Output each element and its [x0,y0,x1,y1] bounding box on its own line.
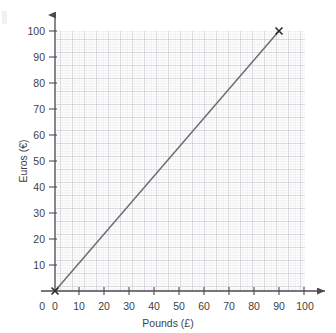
grid-area [55,31,305,291]
page-edge-artifact [2,11,7,24]
x-tick-label: 30 [123,300,135,312]
grid-pattern [55,31,305,291]
y-tick-label: 30 [33,207,45,219]
x-tick-label: 70 [223,300,235,312]
y-tick-label: 90 [33,51,45,63]
y-tick-label: 20 [33,233,45,245]
y-tick-label: 100 [27,25,45,37]
y-axis-title: Euros (€) [17,139,29,182]
x-tick-label: 60 [198,300,210,312]
x-axis-tick-labels: 0 10 20 30 40 50 60 70 80 90 100 [52,300,314,312]
y-tick-label: 60 [33,129,45,141]
chart-svg: 100 90 80 70 60 50 40 30 20 10 0 0 10 20… [0,0,336,333]
x-tick-label: 40 [148,300,160,312]
y-axis-tick-labels: 100 90 80 70 60 50 40 30 20 10 0 [27,25,45,312]
x-tick-label: 90 [273,300,285,312]
y-tick-label: 40 [33,181,45,193]
x-tick-label: 20 [98,300,110,312]
x-tick-label: 0 [52,300,58,312]
y-tick-label: 70 [33,103,45,115]
y-tick-label: 80 [33,77,45,89]
x-tick-label: 100 [296,300,314,312]
conversion-graph-figure: 100 90 80 70 60 50 40 30 20 10 0 0 10 20… [0,0,336,333]
y-tick-label: 50 [33,155,45,167]
y-tick-label: 10 [33,259,45,271]
x-axis-title: Pounds (£) [142,317,193,329]
x-tick-label: 50 [173,300,185,312]
y-tick-label: 0 [39,300,45,312]
x-tick-label: 80 [248,300,260,312]
x-tick-label: 10 [73,300,85,312]
